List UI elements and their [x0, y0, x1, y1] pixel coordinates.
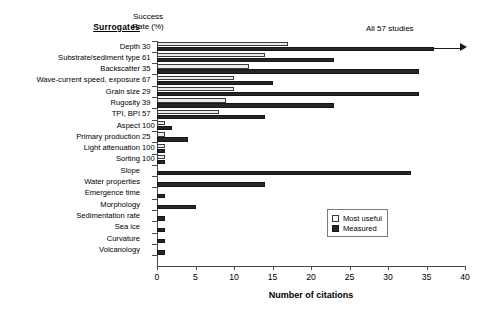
bar-group [157, 97, 477, 108]
bar-row: Grain size29 [0, 86, 486, 97]
bar-most-useful [157, 144, 165, 148]
bar-row: TPI, BPI57 [0, 109, 486, 120]
bar-measured [157, 171, 411, 175]
bar-measured [157, 182, 265, 186]
bar-row-label: Grain size [0, 87, 140, 97]
x-axis-tick [427, 266, 428, 270]
bar-measured [157, 228, 165, 232]
bar-row: Primary production25 [0, 131, 486, 142]
bar-measured [157, 103, 334, 107]
bar-row: Slope [0, 165, 486, 176]
y-axis-tick [152, 187, 157, 188]
x-axis-tick [234, 266, 235, 270]
x-axis-tick [196, 266, 197, 270]
bar-row-label: Substrate/sediment type [0, 53, 140, 63]
all-studies-annotation: All 57 studies [366, 24, 414, 33]
y-axis-tick [152, 244, 157, 245]
bar-most-useful [157, 155, 165, 159]
bar-row-label: Rugosity [0, 98, 140, 108]
legend: Most useful Measured [327, 209, 388, 237]
bar-row-label: Morphology [0, 200, 140, 210]
x-axis-tick-label: 25 [335, 272, 365, 282]
y-axis-tick [152, 120, 157, 121]
bar-most-useful [157, 42, 288, 46]
x-axis-tick [273, 266, 274, 270]
bar-row-label: Sorting [0, 154, 140, 164]
legend-label-measured: Measured [343, 224, 377, 233]
bar-row-label: Sea ice [0, 222, 140, 232]
y-axis-tick [152, 131, 157, 132]
bar-measured [157, 194, 165, 198]
bar-measured [157, 239, 165, 243]
y-axis-tick [152, 233, 157, 234]
bar-row-label: Curvature [0, 234, 140, 244]
bar-measured [157, 58, 334, 62]
bar-group [157, 244, 477, 255]
y-axis-tick [152, 176, 157, 177]
bar-row: Rugosity39 [0, 97, 486, 108]
bar-rows: Depth30Substrate/sediment type61Backscat… [0, 41, 486, 256]
bar-measured [157, 115, 265, 119]
x-axis-tick-label: 20 [296, 272, 326, 282]
x-axis-tick [465, 266, 466, 270]
bar-row: Sorting100 [0, 154, 486, 165]
bar-row-label: Backscatter [0, 64, 140, 74]
y-axis-tick [152, 210, 157, 211]
y-axis-tick [152, 108, 157, 109]
bar-group [157, 41, 477, 52]
legend-swatch-most-useful-icon [332, 215, 339, 222]
bar-measured [157, 137, 188, 141]
bar-row: Sea ice [0, 222, 486, 233]
bar-group [157, 222, 477, 233]
bar-group [157, 154, 477, 165]
bar-row: Substrate/sediment type61 [0, 52, 486, 63]
bar-row: Volcanology [0, 244, 486, 255]
bar-most-useful [157, 98, 226, 102]
bar-group [157, 64, 477, 75]
column-header-surrogates: Surrogates [0, 22, 140, 32]
bar-row-label: Aspect [0, 121, 140, 131]
bar-group [157, 233, 477, 244]
column-header-success-rate: Success Rate (%) [126, 12, 170, 32]
bar-row: Water properties [0, 177, 486, 188]
y-axis-tick [152, 97, 157, 98]
bar-group [157, 52, 477, 63]
bar-group [157, 165, 477, 176]
legend-item-measured: Measured [332, 223, 382, 233]
bar-row-label: Wave-current speed, exposure [0, 75, 140, 85]
bar-measured [157, 216, 165, 220]
bar-group [157, 210, 477, 221]
legend-swatch-measured-icon [332, 225, 339, 232]
x-axis-tick [388, 266, 389, 270]
bar-most-useful [157, 87, 234, 91]
x-axis-tick [157, 266, 158, 270]
x-axis-title: Number of citations [157, 290, 465, 300]
bar-measured [157, 149, 165, 153]
bar-measured [157, 47, 434, 51]
bar-most-useful [157, 76, 234, 80]
y-axis-tick [152, 165, 157, 166]
y-axis-tick [152, 41, 157, 42]
legend-label-most-useful: Most useful [343, 214, 382, 223]
bar-group [157, 86, 477, 97]
y-axis-tick [152, 255, 157, 256]
bar-row: Sedimentation rate [0, 210, 486, 221]
y-axis-tick [152, 74, 157, 75]
bar-measured [157, 92, 419, 96]
y-axis-tick [152, 86, 157, 87]
bar-row-label: Emergence time [0, 188, 140, 198]
bar-most-useful [157, 132, 165, 136]
bar-group [157, 75, 477, 86]
bar-most-useful [157, 121, 165, 125]
x-axis-tick-label: 35 [412, 272, 442, 282]
y-axis-tick [152, 221, 157, 222]
bar-row-label: Depth [0, 42, 140, 52]
bar-row: Morphology [0, 199, 486, 210]
bar-row: Aspect100 [0, 120, 486, 131]
bar-group [157, 177, 477, 188]
x-axis-tick [350, 266, 351, 270]
x-axis-tick-label: 40 [450, 272, 480, 282]
bar-row-label: Water properties [0, 177, 140, 187]
bar-measured [157, 205, 196, 209]
bar-group [157, 109, 477, 120]
